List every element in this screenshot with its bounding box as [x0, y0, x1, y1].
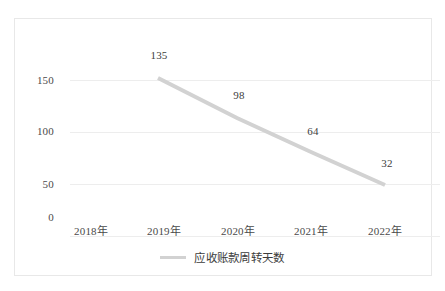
- data-label-2019: 135: [139, 49, 179, 61]
- data-label-2021: 64: [293, 125, 333, 137]
- y-axis-tick-150: 150: [14, 74, 54, 86]
- chart-frame: 150 100 50 0 2018年 2019年 2020年 2021年 202…: [14, 18, 432, 276]
- gridline-100: [70, 132, 440, 133]
- y-axis-tick-50: 50: [14, 178, 54, 190]
- legend-marker-line-icon: [160, 256, 186, 259]
- gridline-50: [70, 184, 440, 185]
- chart-legend: 应收账款周转天数: [0, 249, 445, 265]
- data-label-2020: 98: [219, 89, 259, 101]
- data-label-2022: 32: [367, 157, 407, 169]
- x-axis-tick-2022: 2022年: [340, 222, 430, 238]
- gridline-150: [70, 80, 440, 81]
- legend-label-accounts-receivable-turnover-days: 应收账款周转天数: [194, 249, 284, 265]
- y-axis-tick-100: 100: [14, 125, 54, 137]
